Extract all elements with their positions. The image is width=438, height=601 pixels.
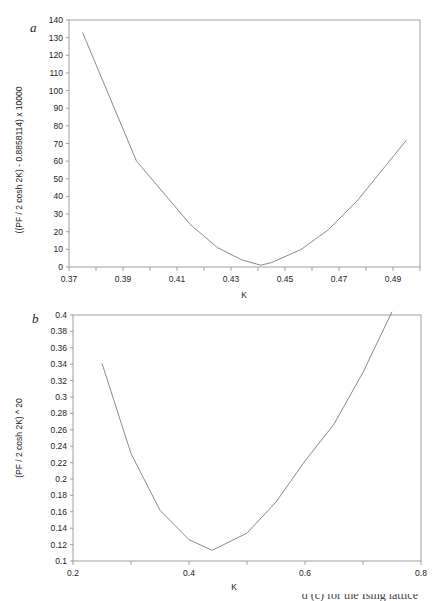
y-tick-label: 140 bbox=[49, 15, 63, 25]
y-tick-label: 0.34 bbox=[50, 359, 67, 369]
x-tick-label: 0.47 bbox=[331, 274, 348, 284]
y-tick-label: 0.3 bbox=[55, 392, 67, 402]
figure: a 0102030405060708090100110120130140 0.3… bbox=[0, 0, 438, 601]
y-tick-label: 0.24 bbox=[50, 441, 67, 451]
y-tick-label: 0.14 bbox=[50, 523, 67, 533]
y-tick-label: 50 bbox=[54, 174, 64, 184]
y-tick-label: 0.4 bbox=[55, 310, 67, 320]
y-tick-label: 0.28 bbox=[50, 408, 67, 418]
panel-b-curve bbox=[102, 312, 392, 551]
y-tick-label: 0 bbox=[58, 262, 63, 272]
y-tick-label: 20 bbox=[54, 227, 64, 237]
panel-a-x-label: K bbox=[241, 290, 247, 300]
x-tick-label: 0.37 bbox=[61, 274, 78, 284]
y-tick-label: 0.2 bbox=[55, 474, 67, 484]
panel-a-letter: a bbox=[30, 20, 37, 35]
panel-a-y-axis: 0102030405060708090100110120130140 bbox=[49, 15, 69, 272]
y-tick-label: 70 bbox=[54, 139, 64, 149]
panel-b-x-axis: 0.20.40.60.8 bbox=[67, 561, 427, 578]
y-tick-label: 0.36 bbox=[50, 343, 67, 353]
x-tick-label: 0.45 bbox=[277, 274, 294, 284]
y-tick-label: 0.16 bbox=[50, 507, 67, 517]
y-tick-label: 90 bbox=[54, 103, 64, 113]
x-tick-label: 0.8 bbox=[415, 568, 427, 578]
y-tick-label: 130 bbox=[49, 33, 63, 43]
x-tick-label: 0.39 bbox=[115, 274, 132, 284]
y-tick-label: 80 bbox=[54, 121, 64, 131]
panel-b-y-axis: 0.10.120.140.160.180.20.220.240.260.280.… bbox=[50, 310, 73, 566]
panel-b-y-label: (PF / 2 cosh 2K) ^ 20 bbox=[14, 398, 24, 478]
x-tick-label: 0.43 bbox=[223, 274, 240, 284]
y-tick-label: 0.18 bbox=[50, 490, 67, 500]
y-tick-label: 10 bbox=[54, 244, 64, 254]
chart-panel-a: a 0102030405060708090100110120130140 0.3… bbox=[14, 15, 420, 300]
y-tick-label: 30 bbox=[54, 209, 64, 219]
y-tick-label: 0.38 bbox=[50, 326, 67, 336]
y-tick-label: 120 bbox=[49, 50, 63, 60]
panel-a-y-label: ((PF / 2 cosh 2K) - 0.8858114) x 10000 bbox=[14, 86, 24, 233]
y-tick-label: 0.26 bbox=[50, 425, 67, 435]
panel-a-curve bbox=[83, 32, 407, 265]
y-tick-label: 100 bbox=[49, 86, 63, 96]
chart-panel-b: b 0.10.120.140.160.180.20.220.240.260.28… bbox=[14, 310, 427, 592]
y-tick-label: 0.12 bbox=[50, 540, 67, 550]
y-tick-label: 0.22 bbox=[50, 458, 67, 468]
x-tick-label: 0.2 bbox=[67, 568, 79, 578]
x-tick-label: 0.41 bbox=[169, 274, 186, 284]
figure-caption: d (c) for the Ising lattice bbox=[0, 594, 438, 601]
x-tick-label: 0.4 bbox=[183, 568, 195, 578]
panel-b-frame bbox=[73, 315, 421, 561]
y-tick-label: 60 bbox=[54, 156, 64, 166]
panel-a-x-axis: 0.370.390.410.430.450.470.49 bbox=[61, 267, 420, 284]
x-tick-label: 0.49 bbox=[385, 274, 402, 284]
figure-caption-text: d (c) for the Ising lattice bbox=[302, 594, 418, 601]
y-tick-label: 40 bbox=[54, 191, 64, 201]
x-tick-label: 0.6 bbox=[299, 568, 311, 578]
y-tick-label: 110 bbox=[49, 68, 63, 78]
panel-a-frame bbox=[69, 20, 420, 267]
y-tick-label: 0.32 bbox=[50, 376, 67, 386]
y-tick-label: 0.1 bbox=[55, 556, 67, 566]
panel-b-letter: b bbox=[32, 311, 39, 326]
panel-b-x-label: K bbox=[231, 582, 237, 592]
